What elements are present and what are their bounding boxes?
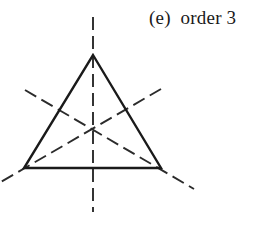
mirror-line-through-bottom-left-vertex — [25, 90, 194, 189]
symmetry-diagram — [0, 0, 259, 225]
figure-container: (e) order 3 — [0, 0, 259, 225]
mirror-lines-group — [0, 17, 194, 212]
figure-caption: (e) order 3 — [149, 7, 236, 29]
